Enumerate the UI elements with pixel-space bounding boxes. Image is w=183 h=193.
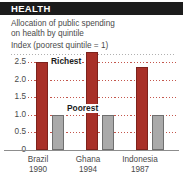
- plot-region: Richest Poorest: [28, 58, 178, 151]
- chart-description-line-2: on health by quintile: [11, 29, 176, 39]
- chart-description: Allocation of public spending on health …: [11, 19, 176, 39]
- x-group-brazil: Brazil 1990: [10, 155, 66, 175]
- bar-ghana-richest: [86, 52, 98, 151]
- bar-brazil-richest: [36, 62, 48, 150]
- series-label-richest: Richest: [50, 57, 82, 66]
- bar-brazil-poorest: [52, 115, 64, 150]
- gridline-2-0: [28, 80, 178, 81]
- chart-area: 2.5 2.0 1.5 1.0 0.5 0 Richest Poorest: [0, 58, 183, 193]
- x-group-ghana: Ghana 1994: [60, 155, 116, 175]
- x-label-country-ghana: Ghana: [60, 155, 116, 165]
- y-tick-label-2-0: 2.0: [2, 76, 26, 84]
- chart-description-line-1: Allocation of public spending: [11, 19, 176, 29]
- y-tick-label-0-5: 0.5: [2, 128, 26, 136]
- bar-indonesia-poorest: [152, 115, 164, 150]
- x-axis-line: [4, 150, 179, 151]
- x-label-year-ghana: 1994: [60, 165, 116, 175]
- y-tick-label-1-0: 1.0: [2, 111, 26, 119]
- y-tick-label-2-5: 2.5: [2, 58, 26, 66]
- x-label-year-brazil: 1990: [10, 165, 66, 175]
- section-title: HEALTH: [11, 3, 51, 14]
- chart-index-note: Index (poorest quintile = 1): [11, 41, 176, 51]
- series-label-poorest: Poorest: [66, 104, 99, 113]
- y-tick-label-1-5: 1.5: [2, 93, 26, 101]
- x-group-indonesia: Indonesia 1987: [112, 155, 168, 175]
- x-label-year-indonesia: 1987: [112, 165, 168, 175]
- gridline-1-5: [28, 97, 178, 98]
- x-label-country-brazil: Brazil: [10, 155, 66, 165]
- health-chart-card: HEALTH Allocation of public spending on …: [0, 0, 183, 193]
- bar-ghana-poorest: [102, 115, 114, 150]
- x-label-country-indonesia: Indonesia: [112, 155, 168, 165]
- bar-indonesia-richest: [136, 67, 148, 150]
